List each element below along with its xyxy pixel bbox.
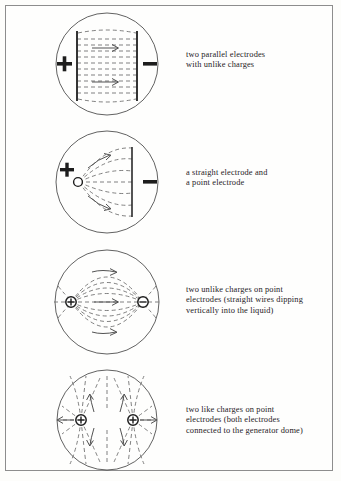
panel-point-and-plate: a straight electrode and a point electro… xyxy=(6,124,332,240)
field-lines xyxy=(77,30,137,102)
diagram-like-point-charges xyxy=(48,366,166,478)
caption-unlike-point-charges: two unlike charges on point electrodes (… xyxy=(186,285,336,316)
caption-line: a point electrode xyxy=(186,178,336,188)
diagram-parallel-electrodes xyxy=(48,8,166,120)
charge-markers xyxy=(76,415,138,425)
caption-point-and-plate: a straight electrode and a point electro… xyxy=(186,168,336,189)
field-arrows xyxy=(92,269,119,336)
caption-line: electrodes (both electrodes xyxy=(186,415,336,425)
diagram-unlike-point-charges xyxy=(48,246,166,358)
caption-line: two parallel electrodes xyxy=(186,50,336,60)
caption-parallel-electrodes: two parallel electrodes with unlike char… xyxy=(186,50,336,71)
caption-like-point-charges: two like charges on point electrodes (bo… xyxy=(186,405,336,436)
panel-unlike-point-charges: two unlike charges on point electrodes (… xyxy=(6,244,332,360)
caption-line: two unlike charges on point xyxy=(186,285,336,295)
field-lines xyxy=(79,148,132,216)
diagram-point-and-plate xyxy=(48,126,166,238)
figure-frame: two parallel electrodes with unlike char… xyxy=(5,5,333,471)
panel-like-point-charges: two like charges on point electrodes (bo… xyxy=(6,364,332,480)
point-electrode xyxy=(74,178,83,187)
caption-line: connected to the generator dome) xyxy=(186,426,336,436)
caption-line: with unlike charges xyxy=(186,60,336,70)
panel-list: two parallel electrodes with unlike char… xyxy=(6,6,332,470)
field-lines xyxy=(60,376,154,464)
electrode-plates xyxy=(77,31,137,101)
caption-line: vertically into the liquid) xyxy=(186,306,336,316)
caption-line: two like charges on point xyxy=(186,405,336,415)
panel-parallel-electrodes: two parallel electrodes with unlike char… xyxy=(6,6,332,122)
caption-line: electrodes (straight wires dipping xyxy=(186,295,336,305)
caption-line: a straight electrode and xyxy=(186,168,336,178)
